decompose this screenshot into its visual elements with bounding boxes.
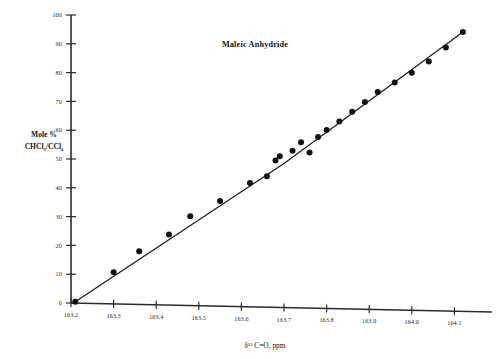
x-axis-tick-label: 164.0 xyxy=(405,318,419,325)
y-axis-tick-label: 90 xyxy=(56,40,62,47)
data-point xyxy=(136,248,142,254)
data-point xyxy=(409,70,415,76)
data-point xyxy=(264,173,270,179)
data-point xyxy=(272,157,278,163)
y-axis-tick-label: 70 xyxy=(56,98,62,105)
x-axis-tick-label: 163.7 xyxy=(277,316,291,323)
y-axis-tick-label: 80 xyxy=(56,69,62,76)
data-point xyxy=(460,29,466,35)
x-axis-tick-labels: 163.2163.3163.4163.5163.6163.7163.8163.9… xyxy=(64,311,462,326)
y-axis-tick-labels: 0102030405060708090100 xyxy=(52,11,62,306)
y-axis-tick-label: 50 xyxy=(56,155,62,162)
x-axis-tick-label: 163.9 xyxy=(362,317,376,324)
data-point xyxy=(324,127,330,133)
data-point xyxy=(426,59,432,65)
data-points-group xyxy=(72,29,466,305)
x-axis-tick-label: 163.3 xyxy=(106,312,120,319)
data-point xyxy=(290,148,296,154)
y-axis-tick-label: 20 xyxy=(56,242,62,249)
data-point xyxy=(349,109,355,115)
x-axis-tick-label: 163.5 xyxy=(192,314,206,321)
data-point xyxy=(187,213,193,219)
y-axis-title-line2: CHCl₃/CCl₄ xyxy=(25,142,64,151)
x-axis-tick-label: 163.4 xyxy=(149,313,163,320)
fit-line-group xyxy=(75,32,463,302)
x-axis-title: δ¹³ C=O, ppm xyxy=(244,341,285,350)
data-point xyxy=(315,134,321,140)
data-point xyxy=(72,299,78,305)
data-point xyxy=(307,150,313,156)
data-point xyxy=(298,139,304,145)
data-point xyxy=(166,232,172,238)
y-axis-title-line1: Mole % xyxy=(31,130,57,139)
y-axis-group: 0102030405060708090100 xyxy=(52,11,76,306)
data-point xyxy=(111,269,117,275)
data-point xyxy=(375,89,381,95)
data-point xyxy=(336,119,342,125)
x-axis-group: 163.2163.3163.4163.5163.6163.7163.8163.9… xyxy=(64,299,492,326)
x-axis-line xyxy=(71,303,492,312)
scatter-plot-svg: 0102030405060708090100 163.2163.3163.416… xyxy=(0,0,501,359)
y-axis-tick-label: 100 xyxy=(52,11,62,18)
y-axis-tick-label: 10 xyxy=(56,270,62,277)
data-point xyxy=(392,79,398,85)
data-point xyxy=(247,180,253,186)
x-axis-tick-label: 164.1 xyxy=(447,319,461,326)
chart-title: Maleic Anhydride xyxy=(222,40,288,49)
y-axis-tick-label: 0 xyxy=(59,299,62,306)
y-axis-tick-label: 40 xyxy=(56,184,62,191)
data-point xyxy=(443,44,449,50)
data-point xyxy=(362,99,368,105)
chart-figure: 0102030405060708090100 163.2163.3163.416… xyxy=(0,0,501,359)
y-axis-tick-label: 30 xyxy=(56,213,62,220)
x-axis-tick-label: 163.6 xyxy=(234,315,248,322)
data-point xyxy=(277,153,283,159)
x-axis-tick-label: 163.8 xyxy=(319,316,333,323)
data-point xyxy=(217,198,223,204)
x-axis-tick-label: 163.2 xyxy=(64,311,78,318)
trend-line xyxy=(75,32,463,302)
